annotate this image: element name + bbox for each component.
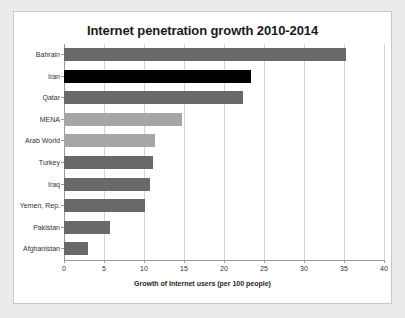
bar-row: Iran — [64, 66, 384, 88]
bar-row: MENA — [64, 109, 384, 131]
x-axis-tick — [104, 260, 105, 263]
x-axis-tick — [224, 260, 225, 263]
chart-title: Internet penetration growth 2010-2014 — [14, 23, 391, 38]
x-axis-tick-label: 35 — [329, 265, 359, 272]
chart-card: Internet penetration growth 2010-2014 Ba… — [13, 11, 392, 304]
bar — [64, 70, 251, 83]
gridline — [384, 44, 385, 260]
bar-row: Qatar — [64, 87, 384, 109]
y-axis-category-label: Yemen, Rep. — [20, 199, 60, 212]
x-axis-tick-label: 5 — [89, 265, 119, 272]
x-axis-tick — [184, 260, 185, 263]
x-axis-tick — [384, 260, 385, 263]
bar-row: Bahrain — [64, 44, 384, 66]
y-axis-category-label: Iran — [48, 70, 60, 83]
bar — [64, 221, 110, 234]
x-axis-tick-label: 25 — [249, 265, 279, 272]
bar — [64, 48, 346, 61]
bar-row: Iraq — [64, 174, 384, 196]
y-axis-category-label: Bahrain — [36, 48, 60, 61]
x-axis-tick — [64, 260, 65, 263]
bar — [64, 134, 155, 147]
x-axis-tick — [144, 260, 145, 263]
bar — [64, 156, 153, 169]
bar — [64, 91, 243, 104]
x-axis-tick-label: 40 — [369, 265, 399, 272]
bar-row: Pakistan — [64, 217, 384, 239]
y-axis-category-label: Qatar — [42, 91, 60, 104]
x-axis-tick-label: 30 — [289, 265, 319, 272]
bar-row: Afghanistan — [64, 238, 384, 260]
y-axis-category-label: MENA — [40, 113, 60, 126]
x-axis-tick-label: 15 — [169, 265, 199, 272]
bar — [64, 242, 88, 255]
x-axis-title: Growth of Internet users (per 100 people… — [14, 280, 391, 287]
y-axis-category-label: Afghanistan — [23, 242, 60, 255]
y-axis-category-label: Arab World — [25, 134, 60, 147]
bar-row: Yemen, Rep. — [64, 195, 384, 217]
x-axis-tick-label: 20 — [209, 265, 239, 272]
x-axis-tick-label: 0 — [49, 265, 79, 272]
y-axis-category-label: Pakistan — [33, 221, 60, 234]
bar-row: Turkey — [64, 152, 384, 174]
y-axis-category-label: Turkey — [39, 156, 60, 169]
bar — [64, 199, 145, 212]
bar — [64, 113, 182, 126]
plot-area: BahrainIranQatarMENAArab WorldTurkeyIraq… — [64, 44, 384, 260]
x-axis-tick — [304, 260, 305, 263]
x-axis-tick — [264, 260, 265, 263]
x-axis-tick-label: 10 — [129, 265, 159, 272]
y-axis-category-label: Iraq — [48, 178, 60, 191]
bar-row: Arab World — [64, 130, 384, 152]
bar — [64, 178, 150, 191]
x-axis-tick — [344, 260, 345, 263]
